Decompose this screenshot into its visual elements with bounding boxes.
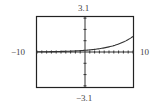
graph-window: [0, 0, 157, 109]
